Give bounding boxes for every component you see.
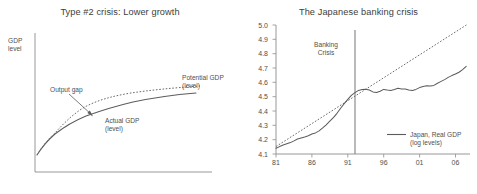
x-tick-label-96: 96 [374, 159, 394, 166]
chart-panel-type2-crisis: Type #2 crisis: Lower growth GDP level O… [0, 0, 240, 194]
y-tick-label-4-5: 4.5 [242, 93, 268, 100]
x-tick-label-91: 91 [338, 159, 358, 166]
x-tick-label-01: 01 [410, 159, 430, 166]
annotation-potential-gdp: Potential GDP (level) [182, 74, 224, 90]
y-tick-label-4-2: 4.2 [242, 136, 268, 143]
y-tick-marks [273, 25, 277, 154]
y-axis-label-left: GDP level [8, 37, 22, 53]
legend-label-japan-real-gdp: Japan, Real GDP (log levels) [410, 131, 461, 147]
x-tick-label-86: 86 [302, 159, 322, 166]
axis-lines-left [35, 33, 212, 172]
y-tick-label-4-7: 4.7 [242, 65, 268, 72]
x-tick-label-06: 06 [446, 159, 466, 166]
annotation-banking-crisis: Banking Crisis [302, 41, 350, 57]
x-tick-marks [276, 154, 456, 158]
y-tick-label-4-8: 4.8 [242, 50, 268, 57]
y-tick-label-4-9: 4.9 [242, 36, 268, 43]
chart-panel-japanese-banking-crisis: The Japanese banking crisis [240, 0, 477, 194]
y-tick-label-4-3: 4.3 [242, 122, 268, 129]
y-tick-label-4-1: 4.1 [242, 151, 268, 158]
chart-svg-left [0, 0, 240, 194]
y-tick-label-4-4: 4.4 [242, 108, 268, 115]
y-tick-label-5-0: 5.0 [242, 22, 268, 29]
figure-root: Type #2 crisis: Lower growth GDP level O… [0, 0, 477, 194]
y-tick-label-4-6: 4.6 [242, 79, 268, 86]
x-tick-label-81: 81 [266, 159, 286, 166]
annotation-output-gap: Output gap [50, 86, 83, 94]
annotation-actual-gdp: Actual GDP (level) [105, 117, 139, 133]
